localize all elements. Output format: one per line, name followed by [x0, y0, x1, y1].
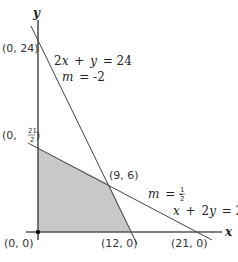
svg-text:(0,: (0, [2, 129, 17, 142]
point-label-0-24: (0, 24) [2, 42, 39, 55]
point-label-12-0: (12, 0) [101, 237, 138, 250]
point-label-9-6: (9, 6) [109, 169, 139, 182]
svg-text:x + 2y = 21: x + 2y = 21 [173, 204, 238, 218]
svg-text:2x + y = 24: 2x + y = 24 [54, 54, 132, 68]
svg-text:m = -: m = - [148, 187, 183, 201]
svg-text:2: 2 [180, 195, 184, 203]
y-axis-label: y [32, 6, 41, 20]
equation-label-2: x + 2y = 21 [173, 204, 238, 218]
origin-dot [36, 230, 40, 234]
slope-label-2: m = - 1 2 [148, 186, 185, 203]
svg-text:): ) [36, 129, 40, 142]
x-axis-label: x [224, 225, 233, 239]
svg-text:2: 2 [30, 136, 34, 144]
linear-programming-graph: y x (0, 24) (0, 21 2 ) (9, 6) (0, 0) (12… [0, 0, 238, 262]
equation-label-1: 2x + y = 24 [54, 54, 132, 68]
svg-text:m = -2: m = -2 [62, 70, 105, 84]
svg-text:1: 1 [180, 186, 184, 194]
slope-label-1: m = -2 [62, 70, 105, 84]
point-label-21-0: (21, 0) [171, 237, 208, 250]
point-label-0-0: (0, 0) [4, 237, 34, 250]
point-label-0-21-2: (0, 21 2 ) [2, 127, 40, 144]
